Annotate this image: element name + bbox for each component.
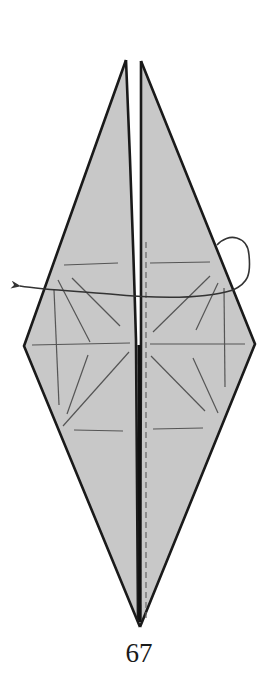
center-spine	[139, 345, 140, 622]
step-number: 67	[0, 638, 278, 668]
origami-diagram	[0, 0, 278, 673]
